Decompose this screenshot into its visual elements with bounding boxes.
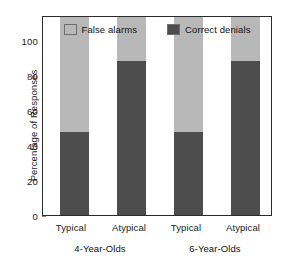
bar-segment-correct-denials [174,132,203,215]
bar-segment-correct-denials [60,132,89,215]
bar-segment-false-alarms [174,17,203,132]
bar-segment-false-alarms [117,17,146,61]
y-tick-label-20: 20 [18,176,38,187]
y-tick-label-60: 60 [18,106,38,117]
y-tick-label-40: 40 [18,141,38,152]
x-tick-label-3: Atypical [214,222,272,233]
stacked-bar-chart-figure: Percentage of Responses 0 20 40 60 80 10… [0,0,284,261]
x-group-label-6-year-olds: 6-Year-Olds [157,243,273,254]
x-group-label-4-year-olds: 4-Year-Olds [42,243,158,254]
x-tick-label-1: Atypical [100,222,158,233]
y-tick-label-0: 0 [18,211,38,222]
bar-segment-false-alarms [231,17,260,61]
y-tick-label-100: 100 [18,36,38,47]
bar-column [117,17,146,215]
y-axis-ticks: 0 20 40 60 80 100 [18,0,38,261]
bar-segment-correct-denials [231,61,260,215]
bar-segment-correct-denials [117,61,146,215]
bars-container [43,17,271,215]
x-tick-label-0: Typical [42,222,100,233]
x-tick-label-2: Typical [157,222,215,233]
bar-column [231,17,260,215]
bar-column [174,17,203,215]
plot-area [42,16,272,216]
bar-segment-false-alarms [60,17,89,132]
y-tick-label-80: 80 [18,71,38,82]
bar-column [60,17,89,215]
